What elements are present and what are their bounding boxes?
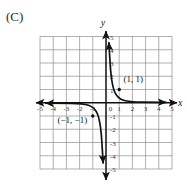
y-tick--3: -3 xyxy=(110,140,116,148)
point-label-neg1-neg1: (−1, −1) xyxy=(58,115,88,125)
x-tick-2: 2 xyxy=(131,105,135,113)
x-axis-label: x xyxy=(177,97,183,108)
y-tick-5: 5 xyxy=(110,34,114,42)
hyperbola-branch-quadrant-1 xyxy=(109,43,166,103)
coordinate-plane-graph: x y -5 -4 -3 -2 -1 0 1 2 3 4 5 5 4 3 2 1… xyxy=(0,0,187,185)
figure-container: (C) xyxy=(0,0,187,185)
point-marker-neg1-neg1 xyxy=(91,114,94,117)
x-tick-3: 3 xyxy=(144,105,148,113)
x-tick--5: -5 xyxy=(37,105,43,113)
x-tick-0: 0 xyxy=(109,105,113,113)
x-tick--2: -2 xyxy=(77,105,83,113)
x-tick-4: 4 xyxy=(157,105,161,113)
y-axis-label: y xyxy=(100,17,106,28)
point-marker-1-1 xyxy=(118,88,121,91)
y-tick-4: 4 xyxy=(110,47,114,55)
x-tick-5: 5 xyxy=(170,105,174,113)
y-tick--1: -1 xyxy=(110,113,116,121)
x-tick--4: -4 xyxy=(50,105,56,113)
x-tick--3: -3 xyxy=(63,105,69,113)
y-tick--4: -4 xyxy=(110,153,116,161)
y-tick--2: -2 xyxy=(110,126,116,134)
x-tick-1: 1 xyxy=(117,105,121,113)
y-tick--5: -5 xyxy=(110,166,116,174)
point-label-1-1: (1, 1) xyxy=(124,74,144,84)
